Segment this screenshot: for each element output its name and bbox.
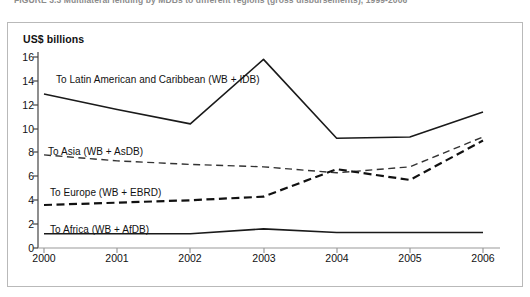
x-axis-ticks xyxy=(44,248,483,253)
figure-container: FIGURE 3.3 Multilateral lending by MDBs … xyxy=(0,0,530,297)
series-line-0 xyxy=(44,59,483,138)
series-layer xyxy=(44,59,483,233)
chart-plot-area xyxy=(0,0,530,297)
series-line-1 xyxy=(44,137,483,173)
y-axis-ticks xyxy=(33,57,38,248)
series-line-2 xyxy=(44,141,483,205)
series-line-3 xyxy=(44,229,483,234)
